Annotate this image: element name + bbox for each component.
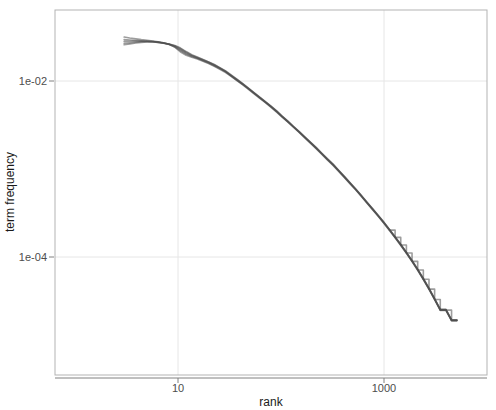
plot-panel-background <box>55 10 487 375</box>
x-tick-label-1000: 1000 <box>372 382 396 394</box>
x-tick-label-10: 10 <box>172 382 184 394</box>
y-axis-title: term frequency <box>3 152 17 232</box>
zipf-chart: 1e-02 1e-04 10 1000 rank term frequency <box>0 0 496 410</box>
y-tick-label-1e-04: 1e-04 <box>19 251 47 263</box>
x-axis-title: rank <box>259 395 283 409</box>
y-tick-label-1e-02: 1e-02 <box>19 75 47 87</box>
plot-canvas: 1e-02 1e-04 10 1000 rank term frequency <box>0 0 496 410</box>
